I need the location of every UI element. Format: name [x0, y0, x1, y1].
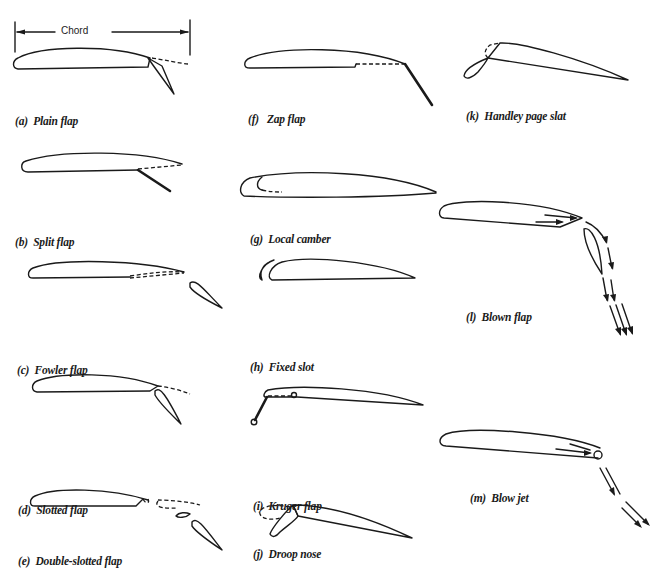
caption-plain-flap: (a) Plain flap	[15, 115, 78, 127]
caption-split-flap: (b) Split flap	[15, 236, 74, 248]
plain-flap-drawing	[14, 20, 191, 94]
caption-handley-page-slat: (k) Handley page slat	[466, 110, 566, 122]
caption-droop-nose: (j) Droop nose	[253, 548, 321, 560]
split-flap-drawing	[22, 153, 182, 191]
caption-blow-jet: (m) Blow jet	[470, 492, 528, 504]
caption-slotted-flap: (d) Slotted flap	[18, 504, 88, 516]
caption-kruger-flap: (i) Kruger flap	[253, 500, 322, 512]
slotted-flap-drawing	[33, 375, 191, 424]
caption-fowler-flap: (c) Fowler flap	[17, 364, 88, 376]
caption-zap-flap: (f) Zap flap	[248, 113, 305, 125]
blow-jet-drawing	[440, 430, 650, 528]
handley-page-slat-drawing	[464, 43, 628, 80]
fowler-flap-drawing	[29, 262, 223, 308]
high-lift-devices-diagram: Chord (a) Plain flap (b) Split flap (c) …	[0, 0, 665, 574]
local-camber-drawing	[241, 173, 436, 198]
caption-fixed-slot: (h) Fixed slot	[250, 361, 314, 373]
chord-dimension-label: Chord	[58, 25, 91, 36]
fixed-slot-drawing	[260, 259, 415, 280]
caption-double-slotted-flap: (e) Double-slotted flap	[18, 555, 122, 567]
double-slotted-flap-drawing	[31, 490, 223, 550]
airfoil-drawings	[0, 0, 665, 574]
caption-blown-flap: (l) Blown flap	[466, 311, 532, 323]
kruger-flap-drawing	[251, 387, 423, 424]
zap-flap-drawing	[245, 50, 432, 105]
caption-local-camber: (g) Local camber	[250, 233, 331, 245]
